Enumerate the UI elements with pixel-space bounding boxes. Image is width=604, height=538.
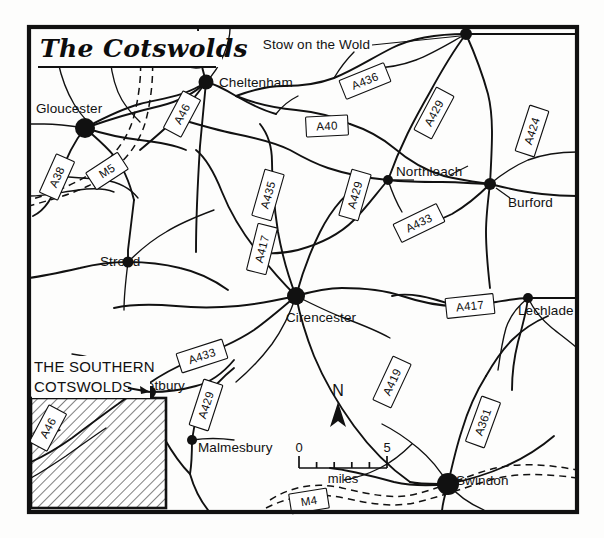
inset-caption: THE SOUTHERN COTSWOLDS (32, 356, 155, 398)
scale-end-label: 5 (383, 440, 390, 455)
town-label-cirencester: Cirencester (286, 310, 357, 325)
compass-north-label: N (332, 382, 344, 399)
town-label-stow-on-the-wold: Stow on the Wold (263, 37, 370, 52)
town-node-stow-on-the-wold[interactable] (460, 28, 472, 40)
town-node-cheltenham[interactable] (199, 75, 214, 90)
town-node-cirencester[interactable] (287, 287, 305, 305)
town-node-gloucester[interactable] (75, 118, 95, 138)
town-label-gloucester: Gloucester (36, 101, 103, 116)
road-shield-label: A40 (316, 119, 338, 132)
scale-unit-label: miles (328, 471, 359, 486)
road-shield-a40[interactable]: A40 (306, 115, 349, 137)
town-label-stroud: Stroud (100, 254, 140, 269)
cotswolds-map: Gloucester Cheltenham Stow on the Wold N… (0, 0, 604, 538)
town-label-lechlade: Lechlade (518, 303, 574, 318)
town-label-northleach: Northleach (396, 164, 462, 179)
town-node-northleach[interactable] (383, 175, 393, 185)
town-node-lechlade[interactable] (523, 293, 533, 303)
town-label-swindon: Swindon (456, 473, 509, 488)
map-canvas: Gloucester Cheltenham Stow on the Wold N… (0, 0, 604, 538)
town-label-burford: Burford (508, 195, 553, 210)
map-title-block: The Cotswolds (34, 31, 248, 67)
inset-caption-line2: COTSWOLDS (34, 378, 132, 395)
inset-caption-line1: THE SOUTHERN (34, 358, 155, 375)
town-node-malmesbury[interactable] (187, 435, 197, 445)
scale-start-label: 0 (295, 440, 302, 455)
town-node-burford[interactable] (484, 178, 496, 190)
town-label-cheltenham: Cheltenham (219, 75, 293, 90)
road-shield-a417-east[interactable]: A417 (445, 294, 495, 319)
town-label-malmesbury: Malmesbury (198, 440, 273, 455)
map-title: The Cotswolds (40, 34, 248, 63)
